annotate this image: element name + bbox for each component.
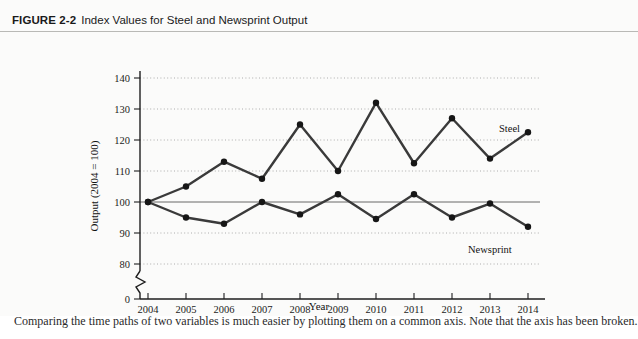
y-tick-label-100: 100 xyxy=(114,197,130,208)
series-label-steel: Steel xyxy=(499,123,520,134)
data-point xyxy=(335,168,341,174)
figure-card: FIGURE 2-2Index Values for Steel and New… xyxy=(0,0,638,316)
y-axis-break xyxy=(136,271,145,299)
data-point xyxy=(335,191,341,197)
series-line-newsprint xyxy=(148,194,528,227)
data-point xyxy=(449,214,455,220)
data-point xyxy=(183,183,189,189)
data-point xyxy=(259,199,265,205)
y-axis xyxy=(136,71,145,299)
line-chart: 140 130 120 110 100 90 80 0 Output (2004… xyxy=(0,31,638,316)
y-tick-labels: 140 130 120 110 100 90 80 0 xyxy=(114,73,130,305)
page-footer-text: Comparing the time paths of two variable… xyxy=(0,316,638,339)
series-label-newsprint: Newsprint xyxy=(468,244,512,255)
data-point xyxy=(221,221,227,227)
data-point xyxy=(145,199,151,205)
series-steel xyxy=(145,100,531,206)
data-point xyxy=(297,211,303,217)
y-tick-label-90: 90 xyxy=(120,228,131,239)
data-series-layer xyxy=(145,100,531,230)
data-point xyxy=(297,121,303,127)
y-tick-label-120: 120 xyxy=(114,135,130,146)
data-point xyxy=(487,155,493,161)
y-axis-title: Output (2004 = 100) xyxy=(88,140,101,231)
data-point xyxy=(183,214,189,220)
chart-plot-area: 140 130 120 110 100 90 80 0 Output (2004… xyxy=(0,31,638,316)
data-point xyxy=(411,191,417,197)
data-point xyxy=(411,160,417,166)
figure-title: FIGURE 2-2Index Values for Steel and New… xyxy=(12,10,612,28)
data-point xyxy=(221,159,227,165)
data-point xyxy=(373,100,379,106)
series-line-steel xyxy=(148,103,528,202)
footer-partial-line: Comparing the time paths of two variable… xyxy=(14,316,628,329)
x-axis-title: Year xyxy=(0,300,638,312)
data-point xyxy=(525,224,531,230)
figure-caption-text: Index Values for Steel and Newsprint Out… xyxy=(81,14,307,26)
data-point xyxy=(373,216,379,222)
figure-number-label: FIGURE 2-2 xyxy=(12,14,76,26)
y-tick-label-110: 110 xyxy=(115,166,130,177)
data-point xyxy=(449,115,455,121)
y-tick-label-130: 130 xyxy=(114,104,130,115)
data-point xyxy=(259,176,265,182)
x-tick-marks xyxy=(148,293,528,299)
y-tick-label-80: 80 xyxy=(120,259,131,270)
y-tick-label-140: 140 xyxy=(114,73,130,84)
data-point xyxy=(525,129,531,135)
data-point xyxy=(487,200,493,206)
series-newsprint xyxy=(145,191,531,230)
y-tick-marks xyxy=(134,78,140,299)
